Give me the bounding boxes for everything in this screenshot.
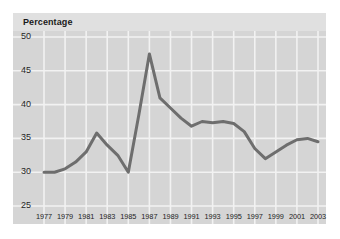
chart-header-band: Percentage [13, 13, 326, 31]
x-tick-label: 1999 [268, 212, 284, 221]
x-tick-label: 1993 [205, 212, 221, 221]
vertical-gridlines [44, 31, 318, 224]
x-tick-label: 1995 [226, 212, 242, 221]
x-tick-label: 1991 [184, 212, 200, 221]
x-tick-label: 1987 [141, 212, 157, 221]
chart-plot-svg [13, 31, 326, 224]
x-tick-label: 2003 [310, 212, 326, 221]
y-tick-label: 45 [21, 65, 31, 75]
x-tick-label: 1983 [99, 212, 115, 221]
y-tick-label: 50 [21, 31, 31, 41]
x-axis-tick-labels: 1977197919811983198519871989199119931995… [13, 212, 326, 228]
horizontal-gridlines [13, 37, 326, 206]
x-tick-label: 1979 [57, 212, 73, 221]
y-tick-label: 40 [21, 99, 31, 109]
plot-area: 253035404550 [13, 31, 326, 224]
data-series-line [44, 54, 318, 172]
x-tick-label: 1981 [78, 212, 94, 221]
x-tick-label: 1997 [247, 212, 263, 221]
x-tick-label: 2001 [289, 212, 305, 221]
x-tick-label: 1989 [162, 212, 178, 221]
x-tick-label: 1977 [36, 212, 52, 221]
x-tick-label: 1985 [120, 212, 136, 221]
chart-title: Percentage [23, 16, 73, 28]
y-tick-label: 30 [21, 166, 31, 176]
chart-panel: Percentage 253035404550 [13, 13, 326, 224]
y-tick-label: 25 [21, 200, 31, 210]
y-tick-label: 35 [21, 132, 31, 142]
chart-figure: Percentage 253035404550 1977197919811983… [0, 0, 340, 239]
